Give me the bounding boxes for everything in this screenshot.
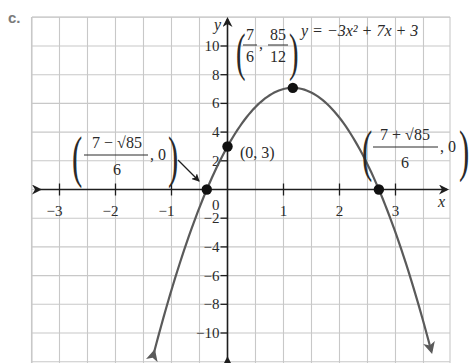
right-root-y: 0 (448, 138, 456, 155)
left-root-pointer-arrow (178, 160, 199, 181)
y-axis-label: y (212, 16, 222, 34)
y-tick-label: 8 (212, 67, 220, 83)
svg-text:,: , (150, 146, 154, 163)
left-root-y: 0 (158, 146, 166, 163)
y-intercept-point (222, 141, 232, 151)
vertex-point (288, 83, 298, 93)
x-axis-label: x (437, 193, 445, 210)
x-tick-label: 1 (280, 203, 288, 219)
svg-text:(: ( (72, 126, 82, 188)
x-tick-label: 2 (336, 203, 344, 219)
right-root-denominator: 6 (401, 154, 409, 171)
y-tick-label: −6 (204, 268, 220, 284)
left-root-denominator: 6 (113, 161, 121, 178)
y-tick-label: 6 (212, 95, 220, 111)
vertex-label: ( 7 6 , 85 12 ) (236, 24, 299, 82)
y-intercept-label: (0, 3) (240, 144, 275, 162)
svg-text:(: ( (362, 120, 372, 182)
x-axis: −3−2−1123 x (40, 184, 447, 219)
x-tick-label: 3 (392, 203, 400, 219)
left-root-label: ( 7 − √85 6 , 0 ) (72, 126, 199, 188)
x-tick-label: −1 (159, 203, 175, 219)
y-axis: 108642−2−4−6−8−10 y 0 (196, 16, 227, 358)
vertex-y-denominator: 12 (270, 48, 286, 65)
svg-text:,: , (440, 138, 444, 155)
right-root-label: ( 7 + √85 6 , 0 ) (362, 120, 469, 182)
x-tick-label: −3 (47, 203, 63, 219)
svg-text:(: ( (236, 24, 246, 82)
vertex-y-numerator: 85 (270, 26, 286, 43)
y-tick-label: −10 (196, 325, 219, 341)
svg-text:): ) (168, 126, 178, 188)
vertex-x-numerator: 7 (246, 26, 254, 43)
left-root-numerator: 7 − √85 (92, 134, 142, 151)
equation-label: y = −3x² + 7x + 3 (299, 22, 418, 40)
x-intercept-left-point (202, 184, 212, 194)
svg-text:,: , (259, 35, 263, 52)
svg-text:): ) (289, 24, 299, 82)
parabola-graph: −3−2−1123 x 108642−2−4−6−8−10 y 0 ( 7 6 … (0, 0, 470, 363)
key-points (202, 83, 384, 195)
vertex-x-denominator: 6 (246, 48, 254, 65)
origin-label: 0 (212, 197, 220, 213)
y-tick-label: 10 (205, 38, 220, 54)
y-tick-label: 4 (212, 124, 220, 140)
x-intercept-right-point (374, 184, 384, 194)
svg-text:): ) (459, 120, 469, 182)
y-tick-label: −4 (204, 239, 220, 255)
x-tick-label: −2 (103, 203, 119, 219)
right-root-numerator: 7 + √85 (380, 126, 430, 143)
y-tick-label: −8 (204, 296, 220, 312)
